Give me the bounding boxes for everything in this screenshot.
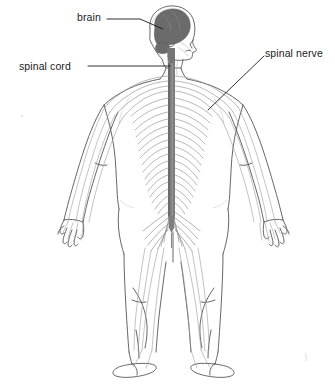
artifact-speck-bottom-right [305,353,306,361]
leg-right-outer [218,254,223,352]
foot-nerve-right [201,350,210,367]
leg-right-inner [181,262,191,352]
plexus-left-3 [114,86,168,117]
shoulder-right [187,79,243,105]
mouth-line [186,50,191,51]
brain-group [154,9,190,66]
hand-right [263,220,287,247]
plexus-left-1 [105,76,168,107]
arm-nerve-right-1 [238,107,275,222]
nerve-pair-16-right [175,203,185,214]
neck-left [160,68,166,79]
sciatic-right [185,249,201,350]
ankle-left [129,352,132,364]
lumbo-nerve-left-2 [145,218,168,239]
face-profile [190,40,193,48]
nerve-pair-16-left [158,203,168,214]
leg-nerves-group [133,248,210,368]
palm-left [64,219,83,222]
ankle-right [215,352,218,364]
torso-right [228,105,243,209]
nerve-pair-15-left [155,196,168,209]
arm-right-outer [243,105,283,220]
leg-left-inner [156,262,166,352]
arm-nerve-right-2 [233,112,267,222]
elbow-left [95,163,107,165]
leg-nerve-left-2 [138,251,151,351]
arm-nerve-right-3 [229,117,261,222]
neck-muscle-2 [177,60,178,75]
shoulder-left [104,79,160,105]
leg-left-outer [124,254,129,352]
knee-left-crease [132,300,146,302]
hip-right [223,209,229,254]
hand-left [60,220,84,247]
hand-nerve-right-2 [270,223,275,239]
calf-left [133,288,147,348]
brain-mass [154,9,190,45]
hand-nerve-left-3 [74,223,78,241]
arm-left-inner [83,112,118,222]
leg-nerve-left-4 [152,248,164,350]
leader-line-spinal-nerve [208,56,264,110]
nervous-system-figure: brain spinal cord spinal nerve [0,0,335,385]
label-brain: brain [77,11,101,23]
face-muscle-2 [178,47,188,56]
foot-nerve-left [133,350,142,367]
face-muscle-1 [180,42,190,50]
hip-left [118,209,124,254]
spinal-cord-highlight [172,63,173,216]
leg-nerve-right-2 [192,251,205,351]
arm-nerve-left-2 [76,112,110,222]
spinal-cord-group [168,63,175,248]
elbow-right [240,163,252,165]
label-spinal-cord: spinal cord [19,60,71,72]
heel-right [210,364,214,375]
label-spinal-nerve: spinal nerve [265,47,323,59]
sciatic-left [142,249,158,350]
waist-line-right [213,200,227,208]
waist-line-left [120,200,134,208]
foot-nerve-left-2 [146,350,152,368]
hand-nerve-left-2 [68,223,73,239]
nerve-pair-15-right [175,196,188,209]
lumbo-nerve-right-2 [175,218,198,239]
artifact-speck-left [21,115,23,117]
plexus-right-1 [175,76,238,107]
knee-right-crease [201,300,215,302]
hand-nerve-right-4 [260,223,262,240]
plexus-right-3 [175,86,229,117]
